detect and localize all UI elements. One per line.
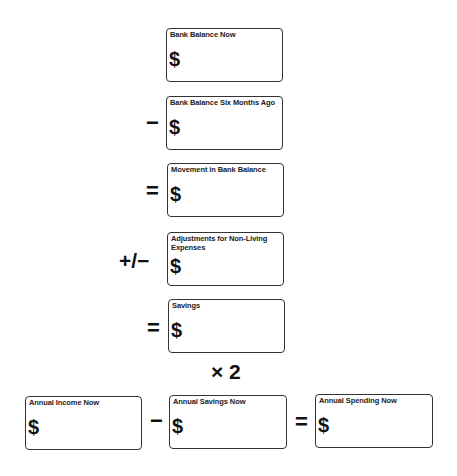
adjustments-non-living-expenses-label: Adjustments for Non-Living Expenses [171,235,279,252]
equals-operator: = [295,411,308,433]
bank-balance-now-box: Bank Balance Now $ [166,28,283,82]
bank-balance-six-months-ago-label: Bank Balance Six Months Ago [170,99,278,108]
dollar-sign-icon: $ [170,183,181,205]
movement-in-bank-balance-label: Movement in Bank Balance [171,166,279,175]
annual-income-now-box: Annual Income Now $ [25,396,142,450]
movement-in-bank-balance-input[interactable] [186,184,282,208]
annual-savings-now-input[interactable] [188,416,284,440]
equals-operator: = [147,317,160,339]
dollar-sign-icon: $ [172,415,183,437]
dollar-sign-icon: $ [318,414,329,436]
savings-label: Savings [172,302,280,311]
savings-input[interactable] [187,320,283,344]
annual-savings-now-label: Annual Savings Now [173,398,281,407]
dollar-sign-icon: $ [169,48,180,70]
savings-box: Savings $ [168,299,285,353]
dollar-sign-icon: $ [170,255,181,277]
minus-operator: − [150,410,163,432]
dollar-sign-icon: $ [169,116,180,138]
plus-minus-operator: +/− [119,250,149,271]
adjustments-non-living-expenses-box: Adjustments for Non-Living Expenses $ [167,232,284,286]
movement-in-bank-balance-box: Movement in Bank Balance $ [167,163,284,217]
bank-balance-now-input[interactable] [185,49,281,73]
dollar-sign-icon: $ [171,319,182,341]
dollar-sign-icon: $ [28,416,39,438]
bank-balance-six-months-ago-box: Bank Balance Six Months Ago $ [166,96,283,150]
annual-savings-now-box: Annual Savings Now $ [169,395,287,449]
bank-balance-six-months-ago-input[interactable] [185,117,281,141]
annual-income-now-input[interactable] [44,417,140,441]
annual-spending-now-box: Annual Spending Now $ [315,394,433,448]
times-two-operator: × 2 [211,361,241,382]
annual-spending-now-input[interactable] [334,415,430,439]
minus-operator: − [146,112,159,134]
equals-operator: = [146,180,159,202]
annual-income-now-label: Annual Income Now [29,399,137,408]
adjustments-non-living-expenses-input[interactable] [186,256,282,280]
bank-balance-now-label: Bank Balance Now [170,31,278,40]
annual-spending-now-label: Annual Spending Now [319,397,427,406]
